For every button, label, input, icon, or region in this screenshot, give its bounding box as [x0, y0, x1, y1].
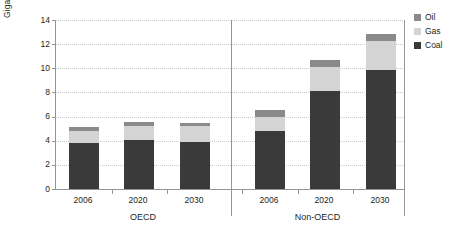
x-axis-tick-mark [353, 189, 354, 194]
x-axis-tick-label: 2020 [294, 195, 354, 205]
legend-label: Oil [425, 13, 435, 21]
y-axis-tick-mark [52, 189, 56, 190]
x-axis-tick-mark [112, 189, 113, 194]
y-axis-tick-mark [52, 165, 56, 166]
y-axis-tick-mark [52, 141, 56, 142]
y-axis-tick-label: 6 [16, 112, 56, 121]
y-axis-title-wrap: Gigatonnes [0, 0, 22, 200]
y-axis-tick-label: 0 [16, 185, 56, 194]
y-axis-tick-label: 12 [16, 40, 56, 49]
group-label: Non-OECD [231, 212, 404, 222]
y-axis-tick-label: 2 [16, 160, 56, 169]
y-axis-tick-label: 10 [16, 64, 56, 73]
bar-segment-gas [180, 126, 210, 142]
x-axis-tick-mark [298, 189, 299, 194]
bar-stack [366, 34, 396, 189]
bar-segment-oil [255, 110, 285, 117]
group-label: OECD [55, 212, 231, 222]
y-axis-tick-mark [52, 20, 56, 21]
x-axis-tick-mark [242, 189, 243, 194]
bar-stack [310, 60, 340, 189]
bar-stack [255, 110, 285, 189]
plot-area: 02468101214 [55, 20, 405, 190]
bar-segment-coal [366, 70, 396, 189]
y-axis-tick-label: 8 [16, 88, 56, 97]
bar-segment-gas [310, 67, 340, 91]
y-axis-tick-mark [52, 68, 56, 69]
bar-segment-gas [69, 131, 99, 143]
chart-container: Gigatonnes 02468101214 20062020203020062… [0, 0, 464, 233]
x-axis-tick-label: 2030 [350, 195, 410, 205]
y-axis-tick-mark [52, 117, 56, 118]
chart-legend: OilGasCoal [414, 10, 442, 52]
bar-segment-oil [366, 34, 396, 41]
bar-segment-gas [255, 117, 285, 131]
bar-segment-coal [310, 91, 340, 189]
legend-swatch-icon [414, 42, 421, 49]
legend-item[interactable]: Oil [414, 10, 442, 24]
bar-stack [69, 127, 99, 189]
y-axis-tick-label: 4 [16, 136, 56, 145]
legend-swatch-icon [414, 14, 421, 21]
group-divider [231, 20, 232, 216]
bar-stack [124, 122, 154, 189]
y-axis-tick-mark [52, 92, 56, 93]
x-axis-tick-mark [167, 189, 168, 194]
x-axis-tick-label: 2006 [53, 195, 113, 205]
x-axis-tick-label: 2030 [164, 195, 224, 205]
x-axis-tick-label: 2020 [108, 195, 168, 205]
plot-right-edge [404, 20, 405, 216]
bar-segment-coal [180, 142, 210, 189]
legend-item[interactable]: Coal [414, 38, 442, 52]
bar-segment-gas [366, 41, 396, 70]
legend-swatch-icon [414, 28, 421, 35]
bar-segment-coal [124, 140, 154, 189]
y-axis-title: Gigatonnes [2, 0, 12, 18]
legend-label: Gas [425, 27, 441, 35]
bar-segment-coal [69, 143, 99, 189]
bar-segment-oil [310, 60, 340, 67]
bar-segment-gas [124, 126, 154, 140]
legend-item[interactable]: Gas [414, 24, 442, 38]
legend-label: Coal [425, 41, 442, 49]
y-axis-tick-label: 14 [16, 16, 56, 25]
bar-stack [180, 123, 210, 189]
x-axis-tick-label: 2006 [239, 195, 299, 205]
y-axis-tick-mark [52, 44, 56, 45]
bar-segment-coal [255, 131, 285, 189]
